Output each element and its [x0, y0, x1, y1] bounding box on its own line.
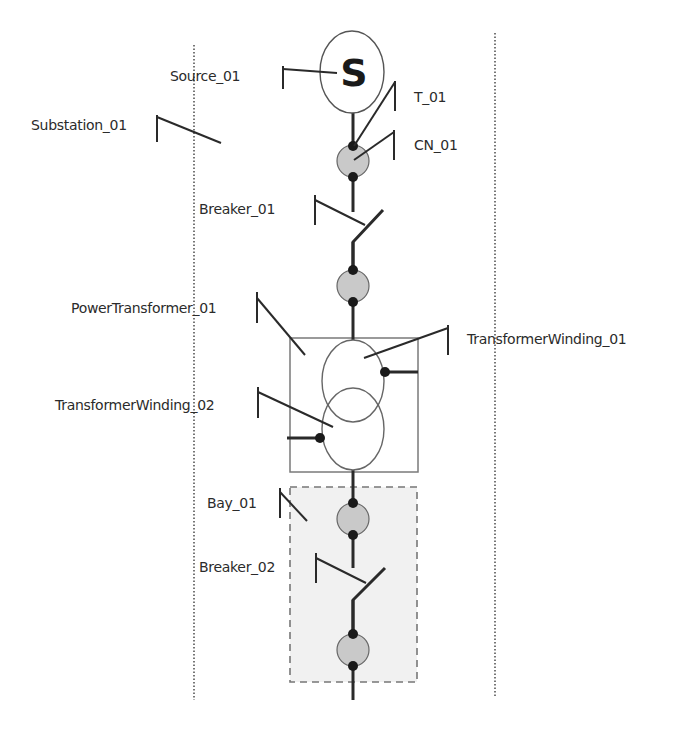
breaker-01-symbol[interactable]: [353, 210, 383, 270]
breaker-01-callout: [315, 195, 365, 225]
cn-callout: [354, 130, 394, 160]
label-connectivity-node: CN_01: [414, 137, 458, 153]
label-terminal: T_01: [414, 89, 446, 105]
winding-02-callout: [258, 387, 333, 427]
substation-callout: [157, 115, 221, 143]
label-bay: Bay_01: [207, 495, 256, 511]
label-breaker-01: Breaker_01: [199, 201, 275, 217]
network-diagram: S: [0, 0, 677, 735]
label-source: Source_01: [170, 68, 240, 84]
transformer-winding-02-symbol[interactable]: [287, 388, 384, 470]
label-power-transformer: PowerTransformer_01: [71, 300, 216, 316]
connectivity-node-cn01[interactable]: [337, 141, 369, 182]
source-glyph: S: [340, 51, 367, 95]
label-winding-01: TransformerWinding_01: [467, 331, 626, 347]
transformer-winding-01-symbol[interactable]: [322, 340, 418, 422]
winding-01-callout: [364, 325, 448, 358]
label-breaker-02: Breaker_02: [199, 559, 275, 575]
connectivity-node-2[interactable]: [337, 265, 369, 307]
power-transformer-box: [290, 338, 418, 472]
label-winding-02: TransformerWinding_02: [55, 397, 214, 413]
power-transformer-callout: [257, 292, 305, 355]
label-substation: Substation_01: [31, 117, 127, 133]
